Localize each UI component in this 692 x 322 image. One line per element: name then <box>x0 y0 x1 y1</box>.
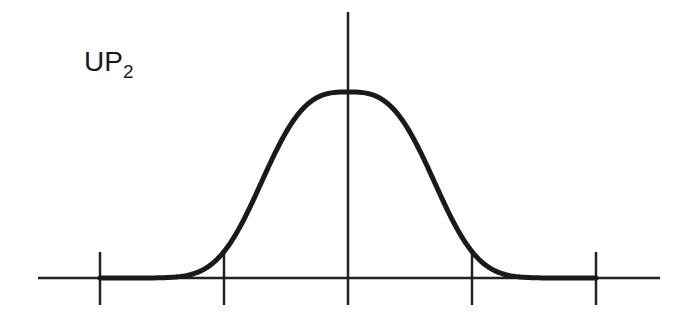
bell-curve-diagram <box>0 0 692 322</box>
